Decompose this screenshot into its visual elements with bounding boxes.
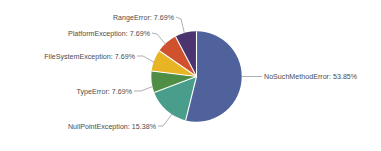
pie-label-platformexception: PlatformException: 7.69% — [68, 30, 151, 38]
pie-label-typeerror: TypeError: 7.69% — [76, 88, 132, 96]
pie-chart-svg: NoSuchMethodError: 53.85% NullPointExcep… — [0, 0, 381, 151]
pie-label-nosuchmethoderror: NoSuchMethodError: 53.85% — [264, 73, 358, 81]
pie-label-filesystemexception: FileSystemException: 7.69% — [44, 53, 135, 61]
pie-chart-container: NoSuchMethodError: 53.85% NullPointExcep… — [0, 0, 381, 151]
pie-label-rangeerror: RangeError: 7.69% — [113, 14, 175, 22]
pie-label-nullpointexception: NullPointException: 15.38% — [68, 123, 157, 131]
